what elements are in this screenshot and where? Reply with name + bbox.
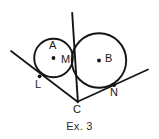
label-tangency-n: N [110,87,118,98]
figure-caption: Ex. 3 [0,120,159,132]
label-vertex-c: C [73,104,81,115]
center-dot-b [97,59,101,63]
label-tangency-l: L [35,79,41,90]
label-center-b: B [105,53,112,64]
geometry-figure: A B M L N C Ex. 3 [0,0,159,139]
label-tangency-m: M [61,54,70,65]
geometry-canvas [0,0,159,139]
label-center-a: A [49,40,56,51]
center-dot-a [52,56,56,60]
